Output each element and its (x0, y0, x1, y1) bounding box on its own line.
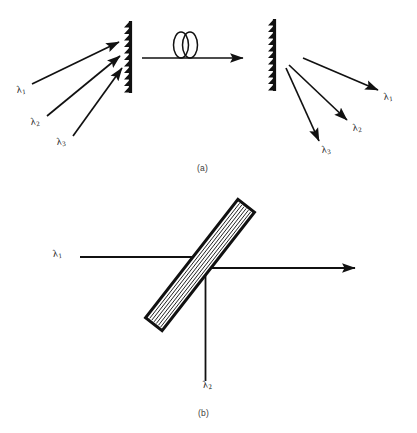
label-output-lambda-3: λ3 (321, 143, 331, 157)
label-input-lambda-2: λ2 (30, 115, 40, 129)
caption-panel-b: (b) (198, 408, 209, 418)
figure-root: λ1 λ2 λ3 λ1 λ2 λ3 (a) λ1 λ2 (b) (0, 0, 417, 433)
label-output-lambda-2: λ2 (352, 121, 362, 135)
lambda-subscript: 1 (21, 88, 26, 96)
right-grating-teeth (268, 19, 274, 91)
fiber-loop-1 (174, 32, 189, 58)
label-b-lambda-2: λ2 (202, 378, 212, 392)
left-grating-teeth (124, 21, 130, 93)
lambda-subscript: 2 (208, 383, 213, 391)
lambda-subscript: 2 (35, 120, 40, 128)
fiber-loop-2 (183, 32, 198, 58)
right-grating (268, 19, 275, 91)
label-input-lambda-1: λ1 (16, 83, 26, 97)
dichroic-filter (146, 199, 255, 330)
panel-b-group (80, 199, 355, 381)
optical-diagram-canvas (0, 0, 417, 433)
output-ray-group (286, 58, 378, 141)
fiber-link (142, 32, 243, 58)
lambda-subscript: 1 (388, 95, 393, 103)
output-ray-1 (303, 58, 378, 90)
lambda-subscript: 1 (58, 252, 63, 260)
label-input-lambda-3: λ3 (56, 135, 66, 149)
label-b-lambda-1: λ1 (52, 247, 62, 261)
label-output-lambda-1: λ1 (383, 90, 393, 104)
lambda-subscript: 3 (326, 148, 331, 156)
lambda-subscript: 2 (357, 126, 362, 134)
left-grating (124, 21, 131, 93)
panel-a-group (32, 19, 378, 141)
input-ray-1 (32, 42, 119, 84)
lambda-subscript: 3 (61, 140, 66, 148)
input-ray-3 (73, 68, 122, 136)
caption-panel-a: (a) (197, 163, 208, 173)
input-ray-group (32, 42, 122, 136)
